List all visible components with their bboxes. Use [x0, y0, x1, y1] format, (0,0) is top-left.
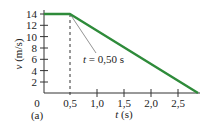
x-axis-title: t (s): [115, 108, 133, 121]
svg-text:2,5: 2,5: [171, 97, 185, 109]
svg-text:10: 10: [26, 31, 38, 43]
y-axis-title: v (m/s): [12, 38, 25, 69]
svg-text:0,5: 0,5: [63, 97, 77, 109]
y-tick-labels: 14 12 10 8 6 4 2: [26, 8, 38, 88]
origin-label: 0: [34, 97, 40, 109]
svg-text:14: 14: [26, 8, 38, 20]
svg-text:2: 2: [32, 76, 38, 88]
svg-text:8: 8: [32, 42, 38, 54]
svg-text:6: 6: [32, 53, 38, 65]
svg-text:1,0: 1,0: [90, 97, 104, 109]
velocity-time-chart: 14 12 10 8 6 4 2 v (m/s) 0,5 1,0 1,5 2,0…: [0, 0, 207, 133]
panel-label: (a): [31, 109, 44, 122]
svg-text:4: 4: [32, 65, 38, 77]
svg-text:12: 12: [26, 19, 37, 31]
annotation-leader-line: [70, 14, 96, 53]
svg-text:2,0: 2,0: [144, 97, 158, 109]
annotation-text: t = 0,50 s: [83, 53, 124, 65]
